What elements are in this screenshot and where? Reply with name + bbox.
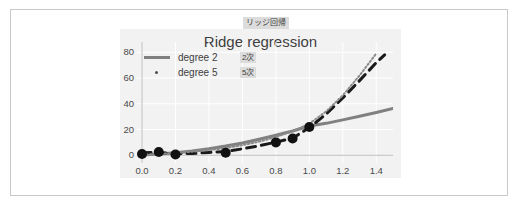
x-tick-label: 0.6 <box>227 166 257 176</box>
y-tick-label: 60 <box>112 73 134 83</box>
scatter-point <box>137 149 147 159</box>
x-tick-label: 1.0 <box>294 166 324 176</box>
legend-item-degree-5: degree 5 5次 <box>140 66 290 80</box>
x-tick-label: 1.2 <box>328 166 358 176</box>
caption-label: リッジ回帰 <box>243 17 289 29</box>
scatter-point <box>304 122 314 132</box>
legend-item-degree-2: degree 2 2次 <box>140 51 290 65</box>
y-tick-label: 80 <box>112 47 134 57</box>
slide-page: リッジ回帰 Ridge regression 020406080 0.00.20… <box>0 0 519 207</box>
scatter-point <box>221 148 231 158</box>
x-tick-label: 0.8 <box>261 166 291 176</box>
scatter-point <box>271 137 281 147</box>
legend-note-badge: 5次 <box>240 67 256 78</box>
series-degree-2 <box>142 109 393 155</box>
legend-line-swatch-icon <box>144 56 170 59</box>
legend-note-badge: 2次 <box>240 52 256 63</box>
x-tick-label: 0.0 <box>127 166 157 176</box>
x-tick-label: 0.2 <box>160 166 190 176</box>
y-tick-label: 40 <box>112 99 134 109</box>
scatter-point <box>170 150 180 160</box>
y-tick-label: 20 <box>112 125 134 135</box>
scatter-point <box>154 147 164 157</box>
legend-label: degree 2 <box>178 51 217 65</box>
legend-label: degree 5 <box>178 66 217 80</box>
legend-dot-swatch-icon <box>155 71 158 74</box>
x-tick-label: 0.4 <box>194 166 224 176</box>
x-tick-label: 1.4 <box>361 166 391 176</box>
chart-panel: Ridge regression 020406080 0.00.20.40.60… <box>120 29 401 178</box>
scatter-point <box>288 134 298 144</box>
y-tick-label: 0 <box>112 150 134 160</box>
chart-legend: degree 2 2次 degree 5 5次 <box>140 51 290 83</box>
